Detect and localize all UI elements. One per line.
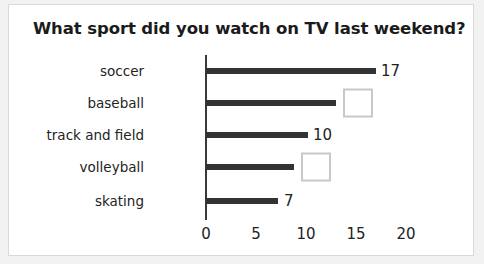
category-label-track-and-field: track and field (9, 127, 144, 143)
category-label-soccer: soccer (9, 63, 144, 79)
bar-value-soccer: 17 (381, 62, 400, 80)
bar-skating (206, 198, 278, 204)
table-row: skating 7 (9, 187, 475, 215)
bar-baseball (206, 100, 336, 106)
bar-value-track-and-field: 10 (313, 126, 332, 144)
bar-track-and-field (206, 132, 308, 138)
x-axis-tick-10: 10 (296, 225, 315, 243)
table-row: soccer 17 (9, 57, 475, 85)
table-row: track and field 10 (9, 121, 475, 149)
bar-soccer (206, 68, 376, 74)
answer-box-baseball[interactable] (343, 89, 373, 118)
table-row: volleyball (9, 153, 475, 181)
category-label-skating: skating (9, 193, 144, 209)
category-label-baseball: baseball (9, 95, 144, 111)
x-axis-tick-0: 0 (201, 225, 211, 243)
table-row: baseball (9, 89, 475, 117)
x-axis-tick-15: 15 (346, 225, 365, 243)
x-axis-tick-20: 20 (396, 225, 415, 243)
bar-value-skating: 7 (284, 192, 294, 210)
x-axis-tick-5: 5 (251, 225, 261, 243)
bar-volleyball (206, 164, 294, 170)
category-label-volleyball: volleyball (9, 159, 144, 175)
chart-card: What sport did you watch on TV last week… (8, 4, 474, 256)
answer-box-volleyball[interactable] (301, 153, 331, 182)
bar-chart-plot: soccer 17 baseball track and field 10 vo… (9, 5, 475, 257)
